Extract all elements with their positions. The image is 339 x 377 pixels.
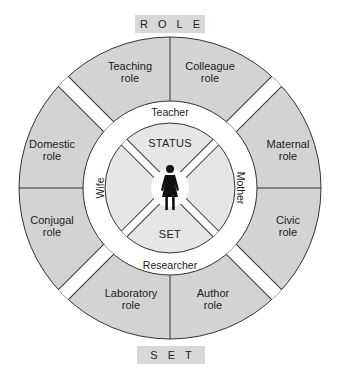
svg-text:Author: Author [197, 287, 230, 299]
svg-text:role: role [279, 150, 297, 162]
svg-text:Colleague: Colleague [185, 60, 235, 72]
status-researcher: Researcher [143, 259, 198, 271]
svg-text:role: role [43, 150, 61, 162]
svg-text:Teaching: Teaching [108, 60, 152, 72]
svg-text:role: role [43, 226, 61, 238]
svg-text:Laboratory: Laboratory [105, 287, 158, 299]
role-set-diagram: STATUS SET Teacher Researcher Wife Mothe… [0, 0, 339, 377]
svg-text:Domestic: Domestic [29, 138, 75, 150]
status-mother: Mother [235, 172, 247, 205]
svg-text:role: role [201, 72, 219, 84]
svg-text:role: role [121, 72, 139, 84]
svg-text:role: role [122, 299, 140, 311]
core-status-label: STATUS [148, 137, 192, 149]
svg-text:Civic: Civic [276, 214, 300, 226]
core-set-label: SET [159, 228, 181, 240]
status-wife: Wife [94, 177, 106, 198]
svg-text:Maternal: Maternal [267, 138, 310, 150]
svg-text:role: role [279, 226, 297, 238]
role-civic: Civic role [276, 214, 300, 238]
svg-text:role: role [204, 299, 222, 311]
svg-text:Conjugal: Conjugal [30, 214, 73, 226]
status-teacher: Teacher [151, 106, 189, 118]
